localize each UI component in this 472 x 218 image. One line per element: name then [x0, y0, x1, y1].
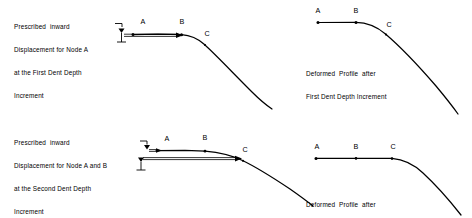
caption-line: Deformed Profile after	[306, 70, 387, 78]
panel-bottom-left: A B C	[137, 133, 314, 206]
node-label-a: A	[141, 17, 146, 26]
node-marker-c	[385, 34, 387, 36]
node-marker-a	[315, 157, 318, 160]
node-label-b: B	[180, 17, 185, 26]
node-marker-a	[132, 33, 135, 36]
node-label-a: A	[316, 6, 321, 15]
caption-line: at the First Dent Depth	[14, 69, 88, 77]
arrowhead-down-icon	[144, 145, 150, 150]
node-marker-b	[355, 21, 358, 24]
caption-line: Prescribed inward	[14, 23, 88, 31]
leader-bracket-upper-icon	[115, 24, 122, 28]
node-label-b: B	[354, 6, 359, 15]
node-marker-a	[156, 149, 159, 152]
caption-line: Deformed Profile after	[306, 201, 396, 209]
node-marker-b	[204, 150, 207, 153]
caption-prescribed-first-increment: Prescribed inward Displacement for Node …	[14, 8, 88, 114]
caption-line: Increment	[14, 208, 107, 216]
caption-deformed-second-increment: Deformed Profile after Second Dent Depth…	[306, 186, 396, 218]
caption-line: at the Second Dent Depth	[14, 185, 107, 193]
caption-line: First Dent Depth Increment	[306, 93, 387, 101]
node-label-a: A	[165, 134, 170, 143]
node-label-c: C	[386, 20, 391, 29]
node-label-b: B	[354, 142, 359, 151]
caption-line: Increment	[14, 92, 88, 100]
caption-deformed-first-increment: Deformed Profile after First Dent Depth …	[306, 55, 387, 116]
leader-bracket-upper-icon	[140, 141, 147, 145]
node-label-c: C	[242, 145, 247, 154]
node-label-c: C	[390, 142, 395, 151]
node-marker-b	[355, 157, 358, 160]
node-label-b: B	[203, 133, 208, 142]
node-marker-c	[242, 160, 244, 162]
caption-line: Displacement for Node A	[14, 46, 88, 54]
node-marker-c	[204, 44, 206, 46]
panel-top-left: A B C	[115, 17, 272, 109]
figure-root: A B C A B C	[0, 0, 472, 218]
caption-line: Displacement for Node A and B	[14, 162, 107, 170]
node-marker-b	[180, 33, 183, 36]
arrowhead-down-icon	[119, 29, 125, 34]
caption-line: Prescribed inward	[14, 139, 107, 147]
node-label-a: A	[315, 142, 320, 151]
node-label-c: C	[204, 29, 209, 38]
shell-profile-curve	[133, 34, 272, 109]
caption-prescribed-second-increment: Prescribed inward Displacement for Node …	[14, 124, 107, 218]
node-marker-c	[391, 157, 394, 160]
node-marker-a	[317, 21, 320, 24]
